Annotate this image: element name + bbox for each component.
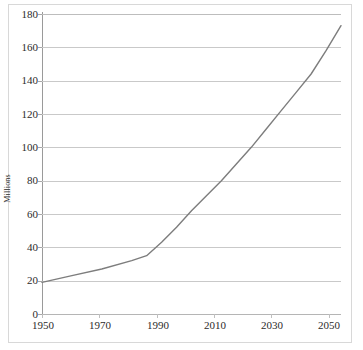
x-tick-label: 1990 [135, 320, 181, 331]
gridline-140 [42, 81, 341, 82]
y-tick-label: 120 [4, 109, 38, 120]
x-tick-label: 2050 [306, 320, 352, 331]
gridline-120 [42, 114, 341, 115]
gridline-100 [42, 147, 341, 148]
y-tick-label: 180 [4, 9, 38, 20]
x-axis-tick [157, 314, 158, 318]
gridline-180 [42, 14, 341, 15]
x-tick-label: 2030 [249, 320, 295, 331]
gridline-40 [42, 247, 341, 248]
chart-figure: 180 160 140 120 100 80 60 40 20 0 Millio… [0, 0, 363, 350]
y-tick-label: 140 [4, 75, 38, 86]
plot-area [42, 14, 341, 314]
x-axis-tick [214, 314, 215, 318]
gridline-0 [42, 314, 341, 315]
y-axis-title: Millions [3, 144, 12, 234]
gridline-160 [42, 47, 341, 48]
x-axis-tick [99, 314, 100, 318]
x-axis-tick [329, 314, 330, 318]
y-tick-label: 160 [4, 42, 38, 53]
gridline-80 [42, 181, 341, 182]
x-tick-label: 1970 [77, 320, 123, 331]
gridline-60 [42, 214, 341, 215]
x-tick-label: 2010 [192, 320, 238, 331]
x-axis-tick [271, 314, 272, 318]
gridline-20 [42, 281, 341, 282]
y-tick-label: 40 [4, 242, 38, 253]
y-tick-label: 20 [4, 275, 38, 286]
x-tick-label: 1950 [20, 320, 66, 331]
x-axis-tick [42, 314, 43, 318]
